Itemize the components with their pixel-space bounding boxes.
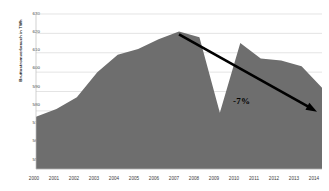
- chart-container: Bruttostromverbrauch in TWh 630 620 610 …: [0, 0, 329, 191]
- area-series-bruttostromverbrauch: [36, 31, 322, 169]
- percent-change-annotation: -7%: [233, 96, 250, 106]
- chart-plot-area: [0, 0, 329, 191]
